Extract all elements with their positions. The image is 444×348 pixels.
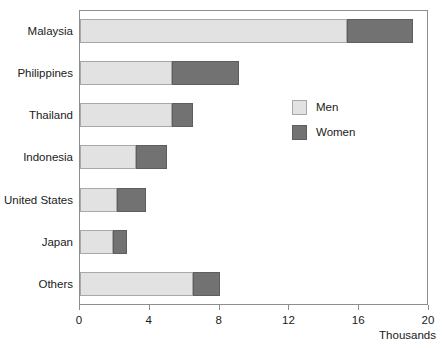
x-axis-unit-label: Thousands: [379, 329, 436, 342]
x-axis-tick: [219, 305, 220, 310]
x-axis-tick-label: 4: [146, 314, 152, 327]
bar-segment-men[interactable]: [80, 61, 172, 85]
bar-row: Others: [0, 263, 444, 305]
x-axis-tick-label: 20: [422, 314, 435, 327]
bar-segment-women[interactable]: [136, 145, 167, 169]
legend-item-women: Women: [292, 122, 355, 143]
bar-segment-men[interactable]: [80, 145, 136, 169]
bar-row: Indonesia: [0, 136, 444, 178]
legend-swatch-men-icon: [292, 100, 307, 115]
bar-segment-women[interactable]: [347, 19, 413, 43]
stacked-bar[interactable]: [80, 61, 239, 85]
stacked-bar[interactable]: [80, 19, 413, 43]
bar-segment-men[interactable]: [80, 272, 193, 296]
category-label: United States: [0, 194, 73, 206]
bar-segment-men[interactable]: [80, 103, 172, 127]
bar-segment-women[interactable]: [113, 230, 127, 254]
x-axis-tick-label: 0: [76, 314, 82, 327]
category-label: Philippines: [0, 67, 73, 79]
bar-segment-women[interactable]: [193, 272, 219, 296]
bar-segment-women[interactable]: [172, 103, 193, 127]
legend-label-men: Men: [316, 101, 338, 114]
category-label: Thailand: [0, 109, 73, 121]
x-axis-tick-label: 12: [282, 314, 295, 327]
category-label: Others: [0, 278, 73, 290]
x-axis-tick: [358, 305, 359, 310]
bar-row: Malaysia: [0, 10, 444, 52]
stacked-bar[interactable]: [80, 272, 220, 296]
bar-row: Thailand: [0, 94, 444, 136]
bar-segment-men[interactable]: [80, 188, 117, 212]
bar-segment-men[interactable]: [80, 230, 113, 254]
x-axis-tick: [428, 305, 429, 310]
bar-row: Philippines: [0, 52, 444, 94]
legend-swatch-women-icon: [292, 125, 307, 140]
legend: Men Women: [292, 97, 355, 147]
stacked-bar[interactable]: [80, 103, 193, 127]
legend-item-men: Men: [292, 97, 355, 118]
bar-segment-men[interactable]: [80, 19, 347, 43]
x-axis-tick-label: 8: [215, 314, 221, 327]
bar-row: United States: [0, 179, 444, 221]
category-label: Indonesia: [0, 151, 73, 163]
category-label: Japan: [0, 236, 73, 248]
stacked-bar[interactable]: [80, 145, 167, 169]
x-axis-tick: [288, 305, 289, 310]
stacked-bar-chart: MalaysiaPhilippinesThailandIndonesiaUnit…: [0, 0, 444, 348]
bar-segment-women[interactable]: [172, 61, 238, 85]
bar-segment-women[interactable]: [117, 188, 147, 212]
x-axis-tick: [149, 305, 150, 310]
x-axis-tick-label: 16: [352, 314, 365, 327]
x-axis-tick: [79, 305, 80, 310]
bar-row: Japan: [0, 221, 444, 263]
x-axis: 048121620: [79, 305, 428, 311]
stacked-bar[interactable]: [80, 188, 146, 212]
category-label: Malaysia: [0, 25, 73, 37]
legend-label-women: Women: [316, 126, 355, 139]
stacked-bar[interactable]: [80, 230, 127, 254]
